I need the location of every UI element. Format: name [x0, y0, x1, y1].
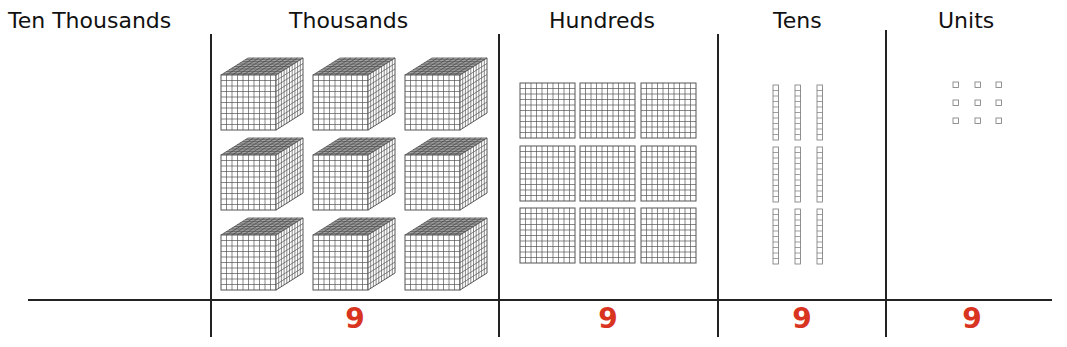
thousand-cube: [221, 218, 303, 290]
hundred-flat: [520, 83, 575, 138]
ten-rod: [795, 209, 801, 264]
thousand-cube: [405, 58, 487, 130]
unit-cube: [975, 82, 981, 88]
ten-rod: [817, 209, 823, 264]
ten-rod: [817, 85, 823, 140]
unit-cube: [975, 100, 981, 106]
ten-rod: [817, 147, 823, 202]
hundred-flat: [641, 208, 696, 263]
unit-cube: [996, 82, 1002, 88]
thousand-cube: [405, 218, 487, 290]
thousands-cubes: [221, 58, 487, 290]
unit-cube: [996, 100, 1002, 106]
thousand-cube: [221, 138, 303, 210]
thousand-cube: [405, 138, 487, 210]
base-ten-blocks: [0, 0, 1067, 347]
hundred-flat: [520, 208, 575, 263]
hundreds-flats: [520, 83, 696, 263]
tens-rods: [773, 85, 823, 264]
unit-cube: [975, 118, 981, 124]
thousand-cube: [221, 58, 303, 130]
ten-rod: [773, 85, 779, 140]
ten-rod: [773, 147, 779, 202]
ten-rod: [773, 209, 779, 264]
hundred-flat: [641, 83, 696, 138]
hundred-flat: [580, 146, 635, 201]
hundred-flat: [580, 208, 635, 263]
thousand-cube: [313, 58, 395, 130]
ten-rod: [795, 85, 801, 140]
hundred-flat: [580, 83, 635, 138]
hundred-flat: [520, 146, 575, 201]
unit-cube: [996, 118, 1002, 124]
ten-rod: [795, 147, 801, 202]
thousand-cube: [313, 138, 395, 210]
unit-cube: [953, 100, 959, 106]
unit-cube: [953, 118, 959, 124]
unit-cube: [953, 82, 959, 88]
thousand-cube: [313, 218, 395, 290]
hundred-flat: [641, 146, 696, 201]
units-cubes: [953, 82, 1002, 124]
